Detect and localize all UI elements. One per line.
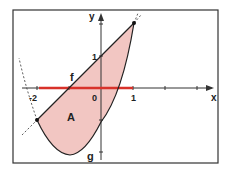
- tick-label-origin: 0: [92, 93, 97, 103]
- x-axis-label: x: [211, 92, 217, 103]
- curve-g-label: g: [87, 150, 94, 162]
- line-f-label: f: [70, 71, 74, 83]
- tick-label-x-1: 1: [131, 93, 136, 103]
- intersection-point-left: [35, 118, 39, 122]
- tick-label-y-1: 1: [92, 52, 97, 62]
- intersection-point-right: [132, 21, 136, 25]
- diagram-canvas: y x -2 0 1 1 f g A: [0, 0, 240, 174]
- y-axis-label: y: [89, 11, 95, 22]
- region-a-label: A: [67, 111, 75, 123]
- tick-label-x-minus2: -2: [29, 93, 37, 103]
